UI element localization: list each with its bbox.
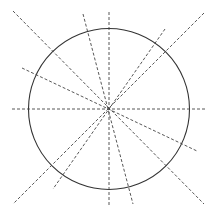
background: [0, 0, 213, 215]
circle-diagram: [0, 0, 213, 215]
